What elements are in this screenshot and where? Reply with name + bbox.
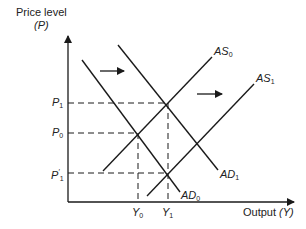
ad-as-diagram bbox=[0, 0, 306, 229]
x-axis-symbol: (Y) bbox=[279, 206, 294, 218]
price-label-p0: P0 bbox=[52, 126, 63, 142]
curve-label-as0: AS0 bbox=[214, 45, 233, 61]
curve-as0 bbox=[103, 57, 212, 171]
y-axis-symbol: (P) bbox=[34, 19, 49, 31]
price-label-p1prime: P′1 bbox=[51, 166, 64, 185]
price-label-p1: P1 bbox=[52, 96, 63, 112]
curve-label-as1: AS1 bbox=[256, 72, 275, 88]
curve-label-ad1: AD1 bbox=[220, 168, 239, 184]
curve-label-ad0: AD0 bbox=[181, 189, 200, 205]
x-axis-label-text: Output bbox=[243, 206, 276, 218]
curve-ad1 bbox=[118, 45, 218, 170]
x-axis-label: Output (Y) bbox=[243, 206, 294, 218]
output-label-y1: Y1 bbox=[162, 206, 173, 222]
output-label-y0: Y0 bbox=[132, 206, 143, 222]
curve-ad0 bbox=[82, 60, 180, 192]
y-axis-label: Price level bbox=[16, 6, 67, 18]
shift-arrows bbox=[100, 71, 222, 94]
